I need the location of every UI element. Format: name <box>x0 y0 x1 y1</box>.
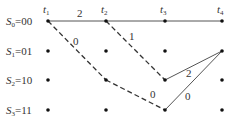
edge-label: 2 <box>186 67 192 79</box>
edge-label: 0 <box>150 88 156 100</box>
trellis-diagram: 201020 S0=00S1=01S2=10S3=11 t1t2t3t4 <box>0 0 235 123</box>
trellis-node <box>220 108 224 112</box>
edge-label: 0 <box>185 90 191 102</box>
edge-solid <box>165 51 222 80</box>
trellis-node <box>104 49 108 53</box>
trellis-node <box>104 19 108 23</box>
trellis-nodes <box>46 19 224 112</box>
edge-dashed <box>106 21 165 80</box>
trellis-node <box>163 78 167 82</box>
edge-label: 2 <box>77 7 83 19</box>
edge-label: 0 <box>73 35 79 47</box>
edge-label: 1 <box>129 30 135 42</box>
state-label: S0=00 <box>6 15 33 29</box>
trellis-node <box>104 78 108 82</box>
trellis-node <box>104 108 108 112</box>
trellis-node <box>46 108 50 112</box>
trellis-node <box>163 19 167 23</box>
time-label: t4 <box>217 3 224 17</box>
trellis-node <box>163 49 167 53</box>
trellis-node <box>46 19 50 23</box>
time-label: t3 <box>160 3 167 17</box>
state-label: S1=01 <box>6 45 32 59</box>
trellis-node <box>220 78 224 82</box>
time-label: t1 <box>43 3 50 17</box>
trellis-node <box>220 49 224 53</box>
edge-dashed <box>48 21 106 80</box>
trellis-node <box>46 78 50 82</box>
time-label: t2 <box>101 3 108 17</box>
trellis-node <box>46 49 50 53</box>
state-label: S2=10 <box>6 74 33 88</box>
edge-solid <box>165 51 222 110</box>
state-labels: S0=00S1=01S2=10S3=11 <box>6 15 33 118</box>
trellis-node <box>163 108 167 112</box>
edge-dashed <box>106 80 165 110</box>
time-labels: t1t2t3t4 <box>43 3 224 17</box>
trellis-node <box>220 19 224 23</box>
state-label: S3=11 <box>6 104 32 118</box>
